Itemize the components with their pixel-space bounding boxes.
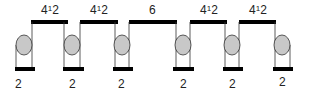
pulley-unit-5: 2 bbox=[223, 22, 243, 91]
pulley-unit-1: 2 bbox=[15, 22, 35, 91]
bottom-label-5: 2 bbox=[229, 77, 236, 91]
pulley-circle bbox=[274, 35, 290, 55]
top-label-1: 412 bbox=[41, 3, 59, 17]
bottom-label-3: 2 bbox=[118, 77, 125, 91]
pulley-unit-4: 2 bbox=[173, 22, 194, 91]
bottom-bar bbox=[173, 67, 194, 71]
bottom-bar bbox=[113, 67, 133, 71]
bottom-label-2: 2 bbox=[69, 77, 76, 91]
top-label-2: 412 bbox=[90, 3, 108, 17]
bottom-bar bbox=[63, 67, 84, 71]
bottom-label-6: 2 bbox=[279, 75, 286, 89]
pulley-unit-6: 2 bbox=[273, 22, 293, 89]
pulley-circle bbox=[175, 35, 191, 55]
pulley-circle bbox=[114, 35, 130, 55]
top-label-3: 6 bbox=[149, 3, 156, 17]
pulley-unit-3: 2 bbox=[113, 22, 133, 91]
bottom-bar bbox=[273, 67, 293, 71]
top-bar-1 bbox=[31, 20, 68, 24]
pulley-circle bbox=[224, 35, 240, 55]
pulley-unit-2: 2 bbox=[63, 22, 84, 91]
top-bar-3 bbox=[129, 20, 177, 24]
bottom-label-4: 2 bbox=[180, 77, 187, 91]
bottom-label-1: 2 bbox=[15, 77, 22, 91]
top-bar-4 bbox=[190, 20, 227, 24]
top-label-4: 412 bbox=[200, 3, 218, 17]
pulley-circle bbox=[64, 35, 80, 55]
top-bar-5 bbox=[239, 20, 276, 24]
pulley-circle bbox=[16, 35, 32, 55]
bottom-bar bbox=[15, 67, 35, 71]
top-bar-2 bbox=[80, 20, 118, 24]
pulley-diagram: 412 412 6 412 412 2 2 2 2 2 bbox=[0, 0, 311, 95]
bottom-bar bbox=[223, 67, 243, 71]
top-label-5: 412 bbox=[249, 3, 267, 17]
